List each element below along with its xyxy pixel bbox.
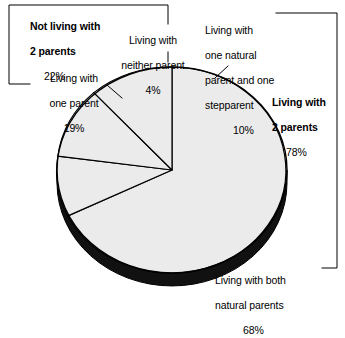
neither-parent-line1: Living with	[129, 34, 177, 46]
stepparent-line2: one natural	[205, 49, 256, 61]
group-label-living-with-2-parents: Living with 2 parents 78%	[272, 84, 342, 171]
stepparent-line4: stepparent	[205, 99, 254, 111]
stepparent-line3: parent and one	[205, 74, 274, 86]
group-left-line1: Not living with	[30, 20, 100, 32]
both-natural-percent: 68%	[215, 324, 335, 336]
one-parent-line2: one parent	[49, 97, 98, 109]
group-right-line1: Living with	[272, 96, 326, 108]
neither-parent-percent: 4%	[98, 84, 208, 96]
slice-label-both-natural-parents: Living with both natural parents 68%	[215, 262, 335, 338]
both-natural-line2: natural parents	[215, 299, 284, 311]
stepparent-line1: Living with	[205, 24, 253, 36]
group-right-line2: 2 parents	[272, 121, 318, 133]
slice-label-neither-parent: Living with neither parent 4%	[98, 22, 208, 109]
one-parent-line1: Living with	[50, 72, 98, 84]
neither-parent-line2: neither parent	[121, 59, 184, 71]
group-left-line2: 2 parents	[30, 45, 76, 57]
one-parent-percent: 19%	[14, 122, 134, 134]
group-right-percent: 78%	[272, 146, 342, 158]
both-natural-line1: Living with both	[215, 274, 286, 286]
